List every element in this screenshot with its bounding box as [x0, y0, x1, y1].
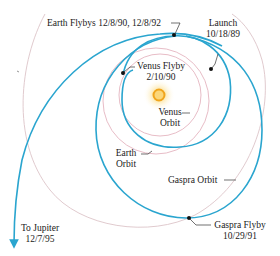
gaspra-orbit-label: Gaspra Orbit — [168, 175, 217, 186]
venus-orbit-line1: Venus — [158, 107, 182, 118]
earth-orbit-line1: Earth — [113, 148, 139, 159]
venus-orbit-line2: Orbit — [158, 118, 182, 129]
gaspra-flyby-leader — [190, 219, 211, 225]
gaspra-orbit-arc — [23, 14, 265, 227]
earth-flybys-leader — [171, 23, 180, 34]
gaspra-flyby-label: Gaspra Flyby 10/29/91 — [210, 220, 270, 242]
to-jupiter-label: To Jupiter 12/7/95 — [17, 223, 63, 245]
venus-flyby-label: Venus Flyby 2/10/90 — [133, 61, 189, 83]
gaspra-flyby-date: 10/29/91 — [210, 231, 270, 242]
earth-orbit-line2: Orbit — [113, 159, 139, 170]
to-jupiter-title: To Jupiter — [17, 223, 63, 234]
venus-orbit-label: Venus Orbit — [158, 107, 182, 129]
trajectory-inner-loop — [122, 36, 231, 147]
launch-leader — [212, 54, 218, 68]
launch-date: 10/18/89 — [203, 29, 243, 40]
launch-label: Launch 10/18/89 — [203, 18, 243, 40]
gaspra-flyby-title: Gaspra Flyby — [210, 220, 270, 231]
trajectory-to-jupiter — [14, 33, 222, 244]
earth-orbit-label: Earth Orbit — [113, 148, 139, 170]
venus-flyby-title: Venus Flyby — [133, 61, 189, 72]
venus-flyby-date: 2/10/90 — [133, 72, 189, 83]
earth-flybys-label: Earth Flybys 12/8/90, 12/8/92 — [47, 18, 161, 29]
to-jupiter-date: 12/7/95 — [17, 234, 63, 245]
launch-title: Launch — [203, 18, 243, 29]
gaspra-orbit-tick — [17, 71, 19, 72]
